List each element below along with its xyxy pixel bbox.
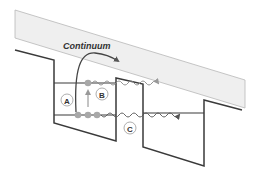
label-c: C: [124, 122, 136, 134]
electron-ground-3: [94, 112, 101, 119]
electron-upper: [85, 80, 92, 87]
electron-ground-1: [75, 112, 82, 119]
quantum-well-diagram: Continuum A B C: [0, 0, 257, 178]
electron-ground-2: [85, 112, 92, 119]
label-b: B: [96, 88, 108, 100]
svg-text:A: A: [64, 97, 70, 106]
svg-text:C: C: [127, 125, 133, 134]
label-a: A: [61, 94, 73, 106]
continuum-label: Continuum: [63, 41, 111, 51]
svg-text:B: B: [99, 91, 105, 100]
